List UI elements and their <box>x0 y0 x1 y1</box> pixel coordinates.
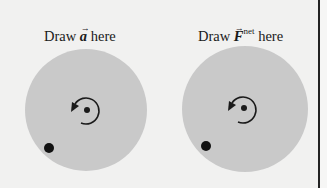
vector-arrow-icon: → <box>235 24 244 33</box>
acceleration-vector-symbol: →a <box>80 29 87 44</box>
right-disk-group <box>182 46 308 172</box>
mass-dot <box>201 141 211 151</box>
right-margin <box>320 0 327 188</box>
draw-net-force-label: Draw →Fnet here <box>198 29 283 44</box>
draw-acceleration-label: Draw →a here <box>44 29 116 44</box>
label-suffix: here <box>91 28 116 44</box>
label-prefix: Draw <box>44 28 76 44</box>
rotation-axis-dot <box>241 105 247 111</box>
net-superscript: net <box>244 26 255 36</box>
label-prefix: Draw <box>198 28 230 44</box>
vector-arrow-icon: → <box>81 24 87 33</box>
mass-dot <box>44 143 54 153</box>
rotation-axis-dot <box>84 107 90 113</box>
label-suffix: here <box>258 28 283 44</box>
net-force-vector-symbol: →F <box>234 29 244 44</box>
left-disk-group <box>25 49 147 171</box>
